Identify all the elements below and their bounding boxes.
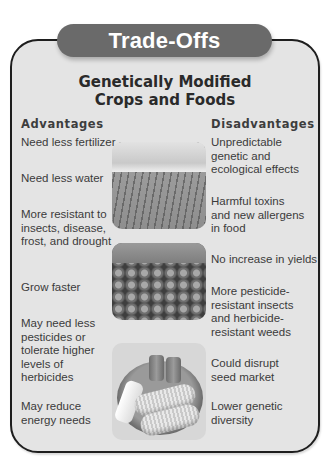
disadvantage-item: Lower genetic diversity — [211, 400, 291, 427]
disadvantage-item: No increase in yields — [211, 253, 319, 267]
disadvantage-item: Could disrupt seed market — [211, 357, 303, 384]
subtitle-line-2: Crops and Foods — [10, 91, 320, 109]
pepper-shaker-shape — [166, 357, 181, 383]
tomatoes-photo — [112, 243, 206, 320]
disadvantage-item: Harmful toxins and new allergens in food — [211, 195, 306, 236]
disadvantage-item: Unpredictable genetic and ecological eff… — [211, 136, 306, 177]
disadvantages-heading: Disadvantages — [211, 117, 315, 131]
disadvantage-item: More pesticide-resistant insects and her… — [211, 285, 306, 339]
crop-field-photo — [112, 142, 206, 229]
advantage-item: More resistant to insects, disease, fros… — [21, 208, 113, 249]
advantage-item: May reduce energy needs — [21, 400, 101, 427]
corn-plate-photo — [112, 343, 206, 440]
page-title: Trade-Offs — [108, 28, 220, 54]
salt-shaker-shape — [149, 355, 164, 381]
advantage-item: Grow faster — [21, 281, 116, 295]
subtitle-line-1: Genetically Modified — [10, 73, 320, 91]
title-banner: Trade-Offs — [57, 24, 272, 57]
advantage-item: Need less water — [21, 172, 116, 186]
advantages-heading: Advantages — [21, 117, 104, 131]
advantage-item: Need less fertilizer — [21, 136, 116, 150]
advantage-item: May need less pesticides or tolerate hig… — [21, 317, 106, 385]
